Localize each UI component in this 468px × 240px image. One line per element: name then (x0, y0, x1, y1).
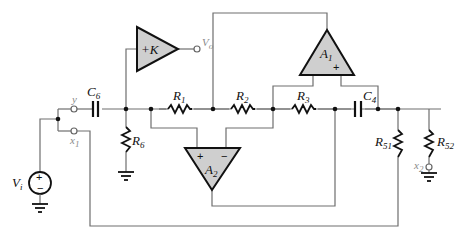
svg-text:C4: C4 (363, 88, 377, 105)
wires (40, 13, 441, 226)
svg-text:x2: x2 (413, 159, 424, 174)
svg-text:−: − (221, 150, 227, 162)
svg-text:+: + (197, 150, 203, 162)
svg-text:−: − (37, 182, 43, 194)
svg-text:R6: R6 (131, 133, 145, 150)
svg-text:x1: x1 (69, 134, 79, 149)
svg-text:y: y (71, 93, 77, 105)
resistor-r51 (394, 130, 402, 157)
resistor-r6 (122, 127, 130, 152)
svg-text:R52: R52 (436, 134, 454, 151)
ground-icon (421, 170, 437, 181)
circuit-diagram: + − Vi y x1 C6 R6 +K Vo R1 R2 R3 C4 A1 +… (0, 0, 468, 240)
svg-text:Vi: Vi (12, 175, 23, 192)
resistor-r52 (425, 130, 433, 157)
svg-text:R2: R2 (235, 88, 249, 105)
svg-text:+K: +K (141, 42, 160, 57)
terminal-y (71, 106, 77, 112)
ground-icon (118, 172, 134, 180)
svg-text:C6: C6 (87, 84, 101, 101)
svg-text:R51: R51 (374, 134, 392, 151)
svg-text:+: + (333, 61, 339, 73)
svg-text:R1: R1 (172, 88, 185, 105)
voltage-source-vi: + − (29, 171, 51, 204)
ground-icon (32, 204, 48, 212)
svg-text:R3: R3 (296, 88, 310, 105)
terminal-vo (194, 46, 200, 52)
terminal-x2 (426, 164, 432, 170)
svg-text:Vo: Vo (202, 36, 214, 51)
